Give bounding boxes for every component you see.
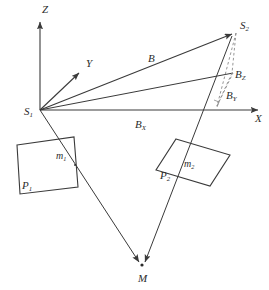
axis-x-label: X	[255, 113, 262, 124]
point-s2-label: S2	[240, 20, 249, 31]
image-plane-p1-label: P1	[22, 180, 32, 191]
image-point-m1-marker	[74, 164, 76, 166]
figure-canvas: Z Y X S1 S2 B BX BY BZ m1 m2 P1 P2	[0, 0, 269, 290]
vector-baseline-label: B	[148, 53, 155, 64]
object-point-label: M	[138, 273, 147, 284]
component-vector-bz-line	[40, 73, 233, 110]
geometry-diagram-svg	[0, 0, 269, 290]
vector-by-label: BY	[226, 90, 237, 101]
baseline-vector-B	[40, 34, 232, 110]
object-point-marker	[140, 263, 143, 266]
ray-s1-m1-object	[40, 110, 139, 262]
vector-bx-label: BX	[135, 119, 146, 130]
axis-y	[40, 73, 79, 110]
ray-s2-m2-object	[145, 36, 232, 262]
vector-bz-label: BZ	[235, 69, 246, 80]
image-plane-p2-label: P2	[160, 170, 170, 181]
axis-z-label: Z	[42, 4, 48, 15]
image-point-m2-label: m2	[184, 159, 194, 169]
point-s1-label: S1	[24, 106, 33, 117]
axis-y-label: Y	[86, 58, 92, 69]
image-point-m1-label: m1	[56, 151, 66, 161]
